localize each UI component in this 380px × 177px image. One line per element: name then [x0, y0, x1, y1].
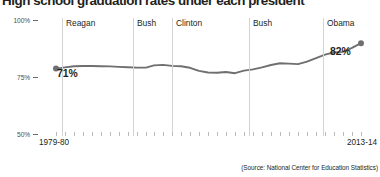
chart-title: High school graduation rates under each … [2, 0, 378, 8]
x-tick [172, 132, 173, 136]
end-value-label: 82% [330, 46, 351, 57]
x-tick [74, 132, 75, 136]
chart-container: High school graduation rates under each … [0, 0, 380, 177]
x-tick [235, 132, 236, 136]
era-label-bush-43: Bush [253, 18, 272, 28]
y-axis-tick-75 [33, 77, 38, 78]
x-tick [244, 132, 245, 136]
x-tick [208, 132, 209, 136]
era-label-bush-41: Bush [137, 18, 156, 28]
y-axis-label-100: 100% [4, 17, 30, 24]
x-tick [92, 132, 93, 136]
x-tick [217, 132, 218, 136]
start-value-label: 71% [57, 68, 78, 79]
x-tick [280, 132, 281, 136]
era-label-obama: Obama [327, 18, 354, 28]
graduation-rate-line [56, 43, 361, 73]
era-divider-clinton [172, 18, 173, 136]
x-tick [163, 132, 164, 136]
era-label-clinton: Clinton [176, 18, 202, 28]
x-tick [352, 132, 353, 136]
x-tick [101, 132, 102, 136]
y-axis-label-75: 75% [4, 74, 30, 81]
x-tick [334, 132, 335, 136]
x-tick [361, 132, 362, 136]
x-tick [110, 132, 111, 136]
x-tick [271, 132, 272, 136]
x-tick [298, 132, 299, 136]
era-divider-bush-41 [133, 18, 134, 136]
x-tick [119, 132, 120, 136]
x-tick [154, 132, 155, 136]
x-tick [262, 132, 263, 136]
x-axis-label-end: 2013-14 [347, 138, 377, 147]
plot-area: Reagan Bush Clinton Bush Obama [41, 18, 378, 136]
x-axis-ticks [41, 132, 378, 137]
x-tick [307, 132, 308, 136]
x-tick [56, 132, 57, 136]
x-tick [253, 132, 254, 136]
x-tick [289, 132, 290, 136]
x-axis-label-start: 1979-80 [39, 138, 69, 147]
x-tick [137, 132, 138, 136]
era-divider-obama [323, 18, 324, 136]
x-tick [343, 132, 344, 136]
y-axis-tick-100 [33, 20, 38, 21]
era-divider-bush-43 [249, 18, 250, 136]
x-tick [83, 132, 84, 136]
source-note: (Source: National Center for Education S… [241, 164, 378, 171]
x-tick [226, 132, 227, 136]
y-axis-label-50: 50% [4, 131, 30, 138]
x-tick [325, 132, 326, 136]
x-tick [128, 132, 129, 136]
x-tick [199, 132, 200, 136]
x-tick [181, 132, 182, 136]
x-tick [146, 132, 147, 136]
x-tick [190, 132, 191, 136]
x-tick [316, 132, 317, 136]
x-tick [65, 132, 66, 136]
end-point-marker [358, 40, 364, 46]
line-series [41, 18, 378, 136]
era-label-reagan: Reagan [66, 18, 95, 28]
y-axis-tick-50 [33, 134, 38, 135]
